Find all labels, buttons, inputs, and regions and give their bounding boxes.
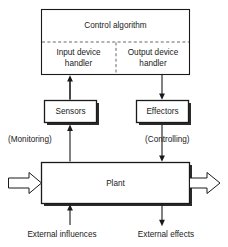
plant-label: Plant <box>106 179 125 188</box>
sensors-label: Sensors <box>55 107 85 116</box>
output-handler-to-effectors-arrowhead <box>159 93 165 99</box>
input-device-handler-label-line2: handler <box>65 59 93 68</box>
external-effects-arrowhead <box>159 220 165 226</box>
output-device-handler-label-line2: handler <box>139 59 167 68</box>
plant-to-sensors-arrowhead <box>67 125 73 131</box>
plant-input-block-arrow <box>9 173 42 194</box>
diagram-canvas: Control algorithm Input device handler O… <box>0 0 228 247</box>
output-device-handler-label-line1: Output device <box>128 48 179 57</box>
input-device-handler-label-line1: Input device <box>56 48 101 57</box>
external-effects-label: External effects <box>138 230 194 239</box>
external-influences-label: External influences <box>27 230 96 239</box>
monitoring-label: (Monitoring) <box>8 135 52 144</box>
effectors-to-plant-arrowhead <box>159 155 165 161</box>
plant-output-block-arrow <box>190 173 221 194</box>
controlling-label: (Controlling) <box>145 135 190 144</box>
control-algorithm-label: Control algorithm <box>84 21 147 30</box>
effectors-label: Effectors <box>146 107 178 116</box>
control-system-diagram: Control algorithm Input device handler O… <box>0 0 228 247</box>
sensors-to-input-handler-arrowhead <box>67 75 73 81</box>
